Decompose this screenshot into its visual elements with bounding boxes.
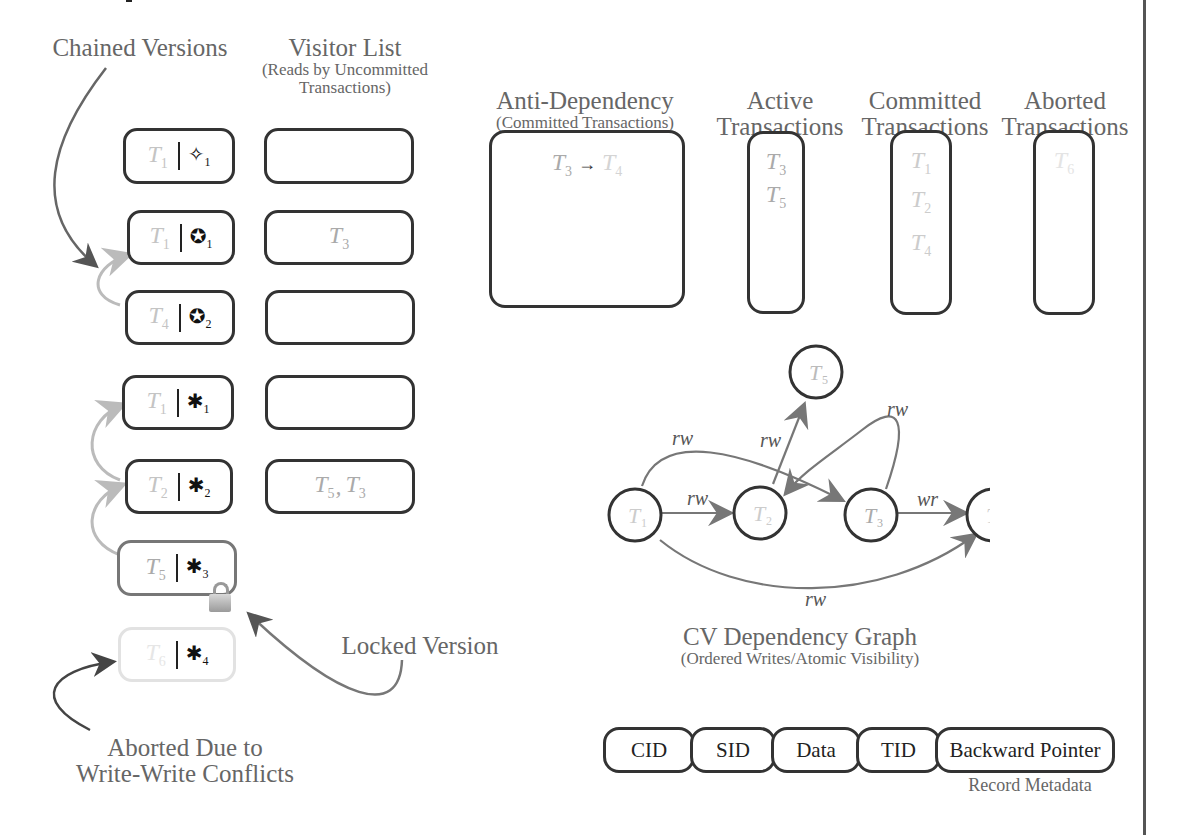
metadata-field-backward-pointer: Backward Pointer bbox=[935, 727, 1115, 773]
aborted-label-line1: Aborted Due to bbox=[60, 735, 310, 761]
version-txn: T1 bbox=[149, 222, 169, 253]
visitor-row-4 bbox=[265, 375, 415, 430]
edge-label-rw: rw bbox=[672, 427, 694, 449]
version-separator bbox=[176, 641, 178, 669]
asterisk-icon: ✱4 bbox=[186, 641, 209, 669]
right-arrow-icon: → bbox=[578, 154, 596, 174]
version-txn: T1 bbox=[146, 387, 166, 418]
asterisk-icon: ✱3 bbox=[186, 554, 209, 582]
aborted-arrow bbox=[54, 662, 112, 730]
version-txn: T1 bbox=[147, 141, 167, 172]
locked-version-label: Locked Version bbox=[325, 633, 515, 659]
svg-text:T: T bbox=[753, 501, 767, 526]
circled-star-icon: ✪2 bbox=[189, 304, 212, 332]
edge-label-wr: wr bbox=[917, 488, 938, 510]
committed-heading-line1: Committed bbox=[855, 88, 995, 114]
version-txn: T4 bbox=[148, 302, 168, 333]
committed-entry: T1 bbox=[893, 147, 949, 178]
aborted-entry: T6 bbox=[1036, 147, 1092, 178]
version-separator bbox=[180, 224, 182, 252]
svg-text:2: 2 bbox=[766, 514, 772, 528]
version-row-7-aborted: T6 ✱4 bbox=[118, 627, 236, 682]
asterisk-icon: ✱2 bbox=[188, 473, 211, 501]
version-row-1: T1 ✧1 bbox=[123, 128, 235, 184]
version-separator bbox=[177, 389, 179, 417]
svg-text:T: T bbox=[986, 503, 990, 528]
version-txn: T6 bbox=[145, 639, 165, 670]
cv-dependency-graph: rw rw rw rw rw wr T1 T2 T3 T4 T5 bbox=[590, 330, 990, 610]
node-t3: T3 bbox=[845, 489, 897, 541]
four-point-star-icon: ✧1 bbox=[188, 142, 211, 170]
visitor-entry: T3 bbox=[329, 222, 349, 253]
edge-label-rw: rw bbox=[805, 588, 827, 610]
anti-dependency-entry: T3 → T4 bbox=[492, 149, 682, 180]
visitor-row-1 bbox=[264, 128, 414, 184]
version-row-3: T4 ✪2 bbox=[125, 290, 235, 345]
visitor-row-3 bbox=[265, 290, 415, 345]
node-t5: T5 bbox=[790, 346, 842, 398]
version-separator bbox=[178, 473, 180, 501]
graph-subtitle: (Ordered Writes/Atomic Visibility) bbox=[640, 650, 960, 668]
metadata-field-tid: TID bbox=[856, 727, 941, 773]
version-txn: T2 bbox=[147, 471, 167, 502]
active-transactions-box: T3 T5 bbox=[747, 131, 805, 314]
version-separator bbox=[176, 554, 178, 582]
aborted-heading-line1: Aborted bbox=[995, 88, 1135, 114]
edge-label-rw: rw bbox=[887, 398, 909, 420]
asterisk-icon: ✱1 bbox=[187, 389, 210, 417]
backpointer-arrow-3 bbox=[92, 485, 122, 555]
aborted-label-line2: Write-Write Conflicts bbox=[60, 761, 310, 787]
active-entry: T3 bbox=[750, 148, 802, 179]
svg-text:T: T bbox=[628, 503, 642, 528]
node-t1: T1 bbox=[609, 489, 661, 541]
version-separator bbox=[178, 142, 180, 170]
graph-title: CV Dependency Graph bbox=[640, 624, 960, 650]
version-row-2: T1 ✪1 bbox=[127, 210, 235, 265]
version-txn: T5 bbox=[145, 553, 165, 584]
lock-icon bbox=[207, 582, 233, 614]
edge-label-rw: rw bbox=[687, 487, 709, 509]
node-t2: T2 bbox=[734, 487, 786, 539]
svg-text:T: T bbox=[864, 503, 878, 528]
backpointer-arrow-2 bbox=[92, 405, 122, 480]
committed-entry: T4 bbox=[893, 229, 949, 260]
active-entry: T5 bbox=[750, 181, 802, 212]
node-t4: T4 bbox=[967, 489, 990, 541]
active-heading-line1: Active bbox=[710, 88, 850, 114]
edge-t1-t4 bbox=[660, 535, 975, 588]
visitor-row-5: T5 , T3 bbox=[265, 459, 415, 514]
record-metadata-caption: Record Metadata bbox=[945, 776, 1115, 795]
version-row-5: T2 ✱2 bbox=[125, 459, 233, 514]
anti-dependency-box: T3 → T4 bbox=[489, 130, 685, 308]
version-row-4: T1 ✱1 bbox=[122, 375, 234, 430]
circled-star-icon: ✪1 bbox=[190, 224, 213, 252]
chained-versions-arrow bbox=[54, 68, 106, 265]
svg-text:1: 1 bbox=[641, 516, 647, 530]
aborted-transactions-box: T6 bbox=[1033, 130, 1095, 315]
edge-label-rw: rw bbox=[760, 429, 782, 451]
backpointer-arrow-1 bbox=[98, 255, 128, 305]
svg-text:5: 5 bbox=[822, 373, 828, 387]
visitor-entry: T3 bbox=[346, 471, 366, 502]
visitor-row-2: T3 bbox=[264, 210, 414, 265]
graph-caption: CV Dependency Graph (Ordered Writes/Atom… bbox=[640, 624, 960, 668]
visitor-entry: T5 bbox=[314, 471, 334, 502]
metadata-field-data: Data bbox=[771, 727, 861, 773]
svg-text:T: T bbox=[809, 360, 823, 385]
committed-transactions-box: T1 T2 T4 bbox=[890, 130, 952, 315]
committed-entry: T2 bbox=[893, 186, 949, 217]
aborted-label: Aborted Due to Write-Write Conflicts bbox=[60, 735, 310, 788]
metadata-field-sid: SID bbox=[690, 727, 776, 773]
metadata-field-cid: CID bbox=[603, 727, 695, 773]
right-divider bbox=[1143, 0, 1146, 835]
svg-text:3: 3 bbox=[877, 516, 883, 530]
version-separator bbox=[179, 304, 181, 332]
